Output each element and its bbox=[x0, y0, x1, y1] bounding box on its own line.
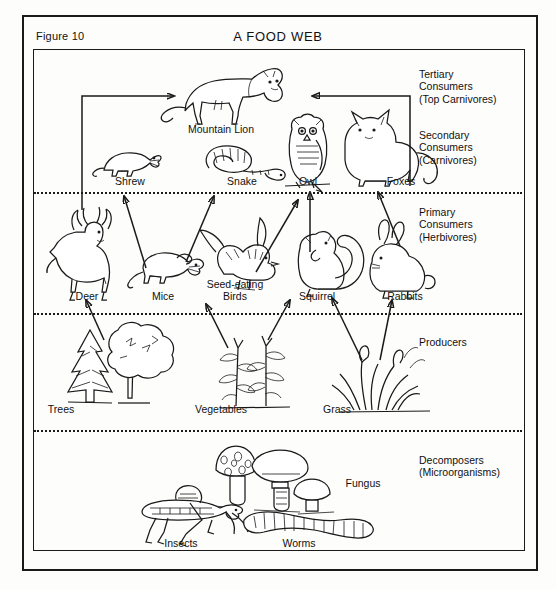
caption-grass: Grass bbox=[314, 404, 360, 416]
divider-secondary-primary bbox=[34, 192, 522, 194]
caption-vegetables: Vegetables bbox=[186, 404, 256, 416]
tier-label-secondary: Secondary Consumers (Carnivores) bbox=[419, 129, 477, 166]
caption-insects: Insects bbox=[154, 538, 208, 550]
divider-producers-decomposers bbox=[34, 430, 522, 432]
caption-snake: Snake bbox=[212, 176, 272, 188]
caption-foxes: Foxes bbox=[376, 176, 426, 188]
caption-owl: Owl bbox=[286, 176, 330, 188]
page-title: A FOOD WEB bbox=[0, 29, 556, 44]
caption-deer: Deer bbox=[62, 291, 112, 303]
tier-label-tertiary: Tertiary Consumers (Top Carnivores) bbox=[419, 68, 497, 105]
food-web-figure: Figure 10 A FOOD WEB Tertiary Consumers … bbox=[0, 0, 556, 590]
caption-shrew: Shrew bbox=[100, 176, 160, 188]
caption-worms: Worms bbox=[272, 538, 326, 550]
caption-squirrel: Squirrel bbox=[288, 291, 346, 303]
caption-mountain-lion: Mountain Lion bbox=[176, 124, 266, 136]
caption-seed-eating-birds: Seed-eating Birds bbox=[200, 279, 270, 302]
caption-rabbits: Rabbits bbox=[378, 291, 432, 303]
tier-label-primary: Primary Consumers (Herbivores) bbox=[419, 206, 477, 243]
divider-primary-producers bbox=[34, 313, 522, 315]
caption-trees: Trees bbox=[38, 404, 84, 416]
tier-label-producers: Producers bbox=[419, 336, 467, 348]
tier-label-decomposers: Decomposers (Microorganisms) bbox=[419, 454, 500, 479]
caption-mice: Mice bbox=[138, 291, 188, 303]
caption-fungus: Fungus bbox=[336, 478, 390, 490]
